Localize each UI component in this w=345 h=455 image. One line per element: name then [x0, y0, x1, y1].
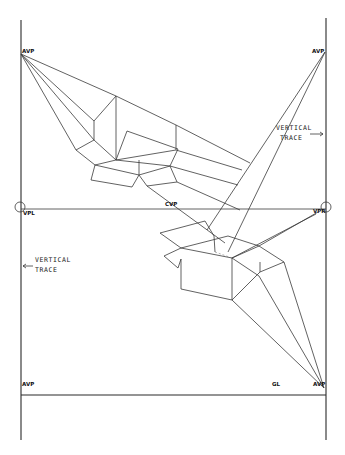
label-vertical-trace-left-1: VERTICAL — [35, 256, 71, 264]
label-vertical-trace-right-2: TRACE — [280, 134, 303, 142]
perspective-drawing: AVP AVP AVP AVP VPL VPR CVP GL VERTICAL … — [0, 0, 345, 455]
label-cvp: CVP — [165, 201, 177, 207]
label-avp-top-right: AVP — [312, 48, 324, 54]
lower-box — [160, 221, 284, 300]
construction-lines-avp-right — [207, 52, 325, 252]
construction-lines-vpr — [232, 212, 324, 388]
label-avp-bottom-left: AVP — [22, 381, 34, 387]
construction-lines-avp-left — [21, 54, 116, 150]
label-vertical-trace-left-2: TRACE — [35, 266, 58, 274]
upper-box — [76, 96, 178, 187]
label-avp-top-left: AVP — [22, 48, 34, 54]
label-avp-bottom-right: AVP — [313, 381, 325, 387]
label-vpr: VPR — [313, 208, 326, 214]
label-vertical-trace-right-1: VERTICAL — [276, 124, 312, 132]
label-gl: GL — [272, 381, 281, 387]
label-vpl: VPL — [23, 210, 35, 216]
